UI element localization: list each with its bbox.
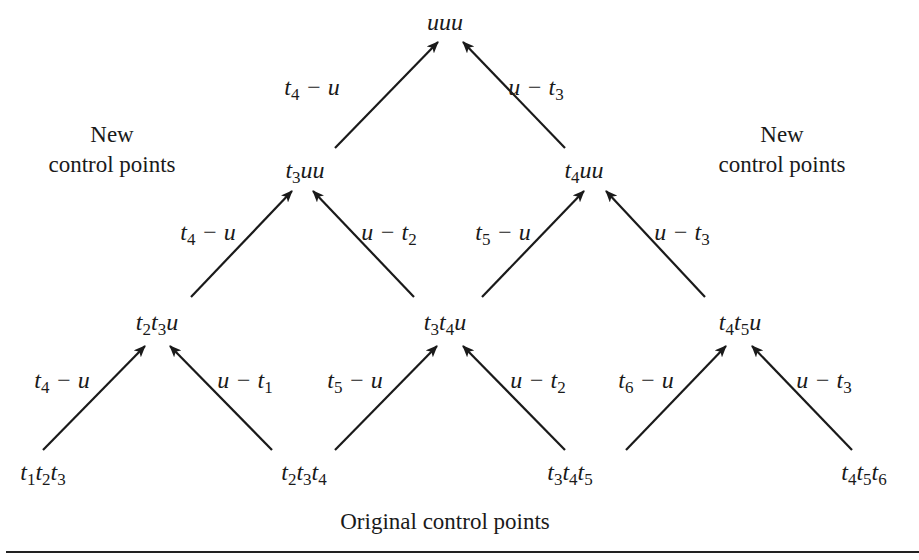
edge-weight-label: t6 − u bbox=[618, 367, 673, 394]
label-line: control points bbox=[718, 150, 845, 180]
arrow-t3t4t5-to-t4t5u bbox=[626, 346, 726, 450]
edge-weight-label: t4 − u bbox=[34, 367, 89, 394]
new-control-points-left-label: New control points bbox=[48, 120, 175, 180]
node-t2t3t4: t2t3t4 bbox=[281, 459, 327, 486]
edge-weight-label: t5 − u bbox=[475, 219, 530, 246]
original-control-points-label: Original control points bbox=[340, 509, 550, 535]
edge-weight-label: t4 − u bbox=[180, 219, 235, 246]
edge-weight-label: u − t3 bbox=[508, 74, 563, 101]
node-uuu: uuu bbox=[427, 9, 463, 36]
edge-weight-label: u − t2 bbox=[510, 367, 565, 394]
node-t2t3u: t2t3u bbox=[136, 309, 178, 336]
edge-weight-label: u − t2 bbox=[361, 219, 416, 246]
arrow-t2t3t4-to-t3t4u bbox=[335, 346, 437, 450]
node-t3t4u: t3t4u bbox=[424, 309, 466, 336]
edge-weight-label: u − t1 bbox=[217, 367, 272, 394]
node-t3t4t5: t3t4t5 bbox=[547, 459, 593, 486]
label-line: New bbox=[48, 120, 175, 150]
arrow-t2t3t4-to-t2t3u bbox=[170, 346, 272, 450]
node-t3uu: t3uu bbox=[285, 157, 324, 184]
edges-layer bbox=[0, 0, 919, 560]
edge-weight-label: u − t3 bbox=[654, 219, 709, 246]
bottom-rule bbox=[6, 551, 919, 553]
arrow-t4t5t6-to-t4t5u bbox=[752, 346, 852, 450]
arrow-t1t2t3-to-t2t3u bbox=[43, 346, 145, 450]
node-t4t5t6: t4t5t6 bbox=[841, 459, 887, 486]
node-t4uu: t4uu bbox=[564, 157, 603, 184]
label-line: control points bbox=[48, 150, 175, 180]
arrow-t3uu-to-uuu bbox=[335, 42, 438, 148]
edge-weight-label: t4 − u bbox=[284, 74, 339, 101]
new-control-points-right-label: New control points bbox=[718, 120, 845, 180]
node-t1t2t3: t1t2t3 bbox=[20, 459, 66, 486]
label-line: New bbox=[718, 120, 845, 150]
arrow-t3t4t5-to-t3t4u bbox=[463, 346, 565, 450]
node-t4t5u: t4t5u bbox=[719, 309, 761, 336]
edge-weight-label: u − t3 bbox=[796, 367, 851, 394]
edge-weight-label: t5 − u bbox=[327, 367, 382, 394]
